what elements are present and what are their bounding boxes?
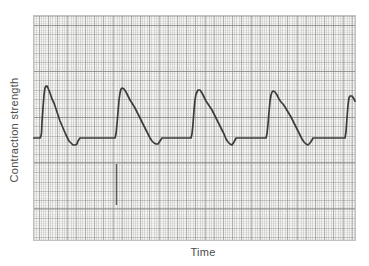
physiograph-figure: Contraction strength Time [0,0,369,266]
x-axis-label: Time [190,246,215,258]
y-axis-label: Contraction strength [8,77,20,182]
trace-plot [33,15,356,241]
contraction-trace [33,86,355,145]
